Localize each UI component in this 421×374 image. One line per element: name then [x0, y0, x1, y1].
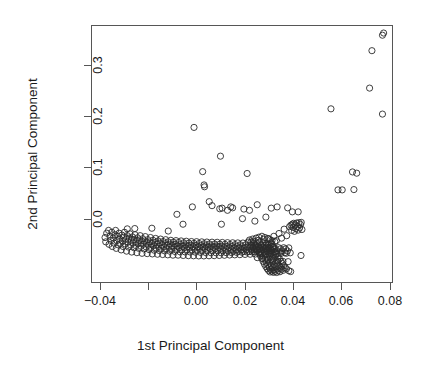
data-point: [298, 252, 304, 258]
y-tick-label-0-text: 0.0: [91, 210, 105, 228]
data-point: [200, 169, 206, 175]
data-point: [165, 228, 171, 234]
data-point: [174, 211, 180, 217]
x-tick-label-6: 0.08: [378, 294, 403, 308]
y-tick-label-1-text: 0.1: [91, 158, 105, 176]
data-point: [381, 30, 387, 36]
data-point: [349, 169, 355, 175]
data-point: [263, 214, 269, 220]
data-point: [328, 106, 334, 112]
data-point: [366, 85, 372, 91]
x-tick-label-2: 0.00: [184, 294, 209, 308]
x-tick-label-4: 0.04: [281, 294, 306, 308]
x-tick-2: [196, 283, 197, 290]
data-point: [284, 233, 290, 239]
data-point: [246, 207, 252, 213]
y-tick-label-2-text: 0.2: [91, 107, 105, 125]
data-point: [241, 206, 247, 212]
data-point: [339, 187, 345, 193]
data-point: [379, 111, 385, 117]
pca-scatter-plot: −0.04 0.00 0.02 0.04 0.06 0.08 0.0 0.1 0…: [0, 0, 421, 374]
data-point: [274, 204, 280, 210]
data-point: [295, 209, 301, 215]
data-point: [217, 153, 223, 159]
x-tick-3: [245, 283, 246, 290]
x-tick-label-5: 0.06: [329, 294, 354, 308]
x-tick-4: [293, 283, 294, 290]
data-point: [191, 124, 197, 130]
data-point: [289, 209, 295, 215]
data-point: [239, 216, 245, 222]
y-tick-label-1: 0.1: [91, 167, 105, 185]
data-point: [254, 202, 260, 208]
data-point: [276, 230, 282, 236]
data-point: [218, 221, 224, 227]
x-tick-6: [390, 283, 391, 290]
data-point: [244, 170, 250, 176]
y-tick-label-0: 0.0: [91, 219, 105, 237]
x-tick-5: [341, 283, 342, 290]
x-tick-0: [100, 283, 101, 290]
x-axis-title: 1st Principal Component: [0, 338, 421, 353]
y-tick-label-3-text: 0.3: [91, 56, 105, 74]
data-point: [351, 186, 357, 192]
x-tick-label-0: −0.04: [84, 294, 116, 308]
data-point: [149, 225, 155, 231]
y-tick-label-3: 0.3: [91, 65, 105, 83]
data-point: [354, 170, 360, 176]
data-point: [180, 221, 186, 227]
data-point: [252, 218, 258, 224]
data-point: [230, 205, 236, 211]
data-point: [369, 48, 375, 54]
y-tick-label-2: 0.2: [91, 116, 105, 134]
data-point: [132, 225, 138, 231]
y-axis-title: 2nd Principal Component: [22, 25, 44, 283]
data-point: [268, 205, 274, 211]
x-tick-label-3: 0.02: [233, 294, 258, 308]
x-tick-1: [148, 283, 149, 290]
data-point: [189, 204, 195, 210]
scatter-points-layer: [91, 25, 393, 283]
